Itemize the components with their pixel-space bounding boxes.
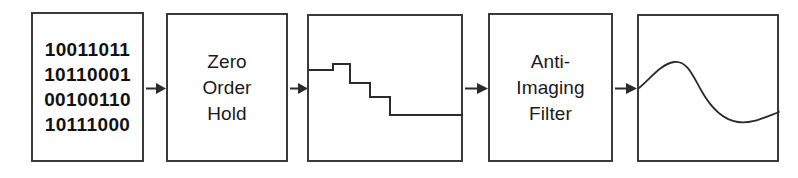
stage-smooth-waveform: [637, 14, 779, 162]
arrow-filter-to-smooth: [615, 80, 638, 97]
staircase-trace: [309, 64, 463, 115]
stage-staircase-waveform: [307, 14, 463, 162]
anti-imaging-filter-label: Anti- Imaging Filter: [490, 49, 611, 127]
signal-chain-diagram: 10011011 10110001 00100110 10111000 Zero…: [0, 0, 798, 178]
smooth-waveform-plot: [639, 16, 781, 164]
staircase-waveform-plot: [309, 16, 465, 164]
stage-zero-order-hold: Zero Order Hold: [166, 13, 288, 162]
binary-row: 10111000: [33, 112, 142, 137]
binary-row: 10011011: [33, 37, 142, 62]
smooth-curve-trace: [639, 62, 779, 123]
binary-row: 10110001: [33, 62, 142, 87]
stage-digital-data: 10011011 10110001 00100110 10111000: [31, 12, 144, 162]
arrow-digital-to-zoh: [146, 80, 167, 97]
binary-row: 00100110: [33, 87, 142, 112]
zero-order-hold-label: Zero Order Hold: [168, 49, 286, 127]
arrow-staircase-to-filter: [465, 80, 489, 97]
binary-data-block: 10011011 10110001 00100110 10111000: [33, 37, 142, 137]
stage-anti-imaging-filter: Anti- Imaging Filter: [488, 13, 613, 162]
